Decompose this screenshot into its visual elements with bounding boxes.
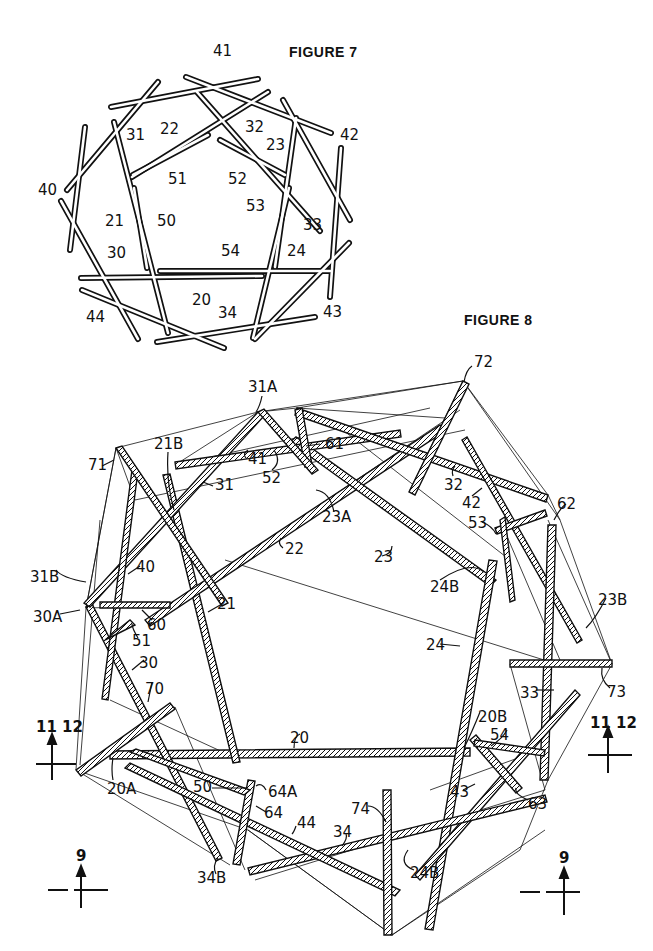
- fig8-label: 42: [462, 496, 481, 511]
- fig8-label: 34B: [197, 871, 226, 886]
- fig8-label: 23B: [598, 593, 627, 608]
- fig8-label: 20: [290, 731, 309, 746]
- section-9-left: 9: [76, 847, 86, 865]
- fig8-label: 23: [374, 550, 393, 565]
- fig7-label: 20: [192, 293, 211, 308]
- fig8-label: 20A: [107, 782, 136, 797]
- fig8-label: 31: [215, 478, 234, 493]
- fig7-label: 42: [340, 128, 359, 143]
- fig7-label: 54: [221, 244, 240, 259]
- fig8-label: 21: [217, 597, 236, 612]
- fig7-label: 50: [157, 214, 176, 229]
- fig8-label: 73: [607, 685, 626, 700]
- fig7-label: 34: [218, 306, 237, 321]
- fig7-label: 23: [266, 138, 285, 153]
- figure-8-drawing: [0, 0, 653, 951]
- fig8-label: 24: [426, 638, 445, 653]
- fig8-label: 24B: [430, 580, 459, 595]
- fig8-label: 62: [557, 497, 576, 512]
- fig7-label: 41: [213, 44, 232, 59]
- fig8-label: 20B: [478, 710, 507, 725]
- fig7-label: 21: [105, 214, 124, 229]
- section-11-12-right: 11 12: [590, 714, 637, 732]
- fig8-label: 30A: [33, 610, 62, 625]
- fig7-label: 31: [126, 128, 145, 143]
- fig8-label: 43: [450, 785, 469, 800]
- fig8-label: 72: [474, 355, 493, 370]
- fig7-label: 51: [168, 172, 187, 187]
- fig8-label: 31A: [248, 380, 277, 395]
- fig7-label: 24: [287, 244, 306, 259]
- fig8-label: 24B: [410, 866, 439, 881]
- fig8-label: 34: [333, 825, 352, 840]
- fig7-label: 52: [228, 172, 247, 187]
- fig8-label: 64: [264, 806, 283, 821]
- section-9-right: 9: [559, 849, 569, 867]
- fig7-label: 53: [246, 199, 265, 214]
- fig8-label: 30: [139, 656, 158, 671]
- fig8-label: 21B: [154, 437, 183, 452]
- fig7-label: 43: [323, 305, 342, 320]
- fig8-label: 74: [351, 802, 370, 817]
- fig8-label: 41: [248, 452, 267, 467]
- fig8-label: 54: [490, 728, 509, 743]
- section-11-12-left: 11 12: [36, 718, 83, 736]
- fig7-label: 44: [86, 310, 105, 325]
- fig7-label: 32: [245, 120, 264, 135]
- fig7-label: 22: [160, 122, 179, 137]
- fig8-label: 64A: [268, 785, 297, 800]
- fig7-label: 40: [38, 183, 57, 198]
- fig8-label: 52: [262, 471, 281, 486]
- fig8-label: 51: [132, 634, 151, 649]
- fig8-label: 53: [468, 516, 487, 531]
- fig8-label: 60: [147, 618, 166, 633]
- fig7-label: 30: [107, 246, 126, 261]
- fig8-label: 33: [520, 686, 539, 701]
- fig8-label: 61: [325, 437, 344, 452]
- fig8-label: 44: [297, 816, 316, 831]
- fig8-label: 31B: [30, 570, 59, 585]
- fig8-label: 32: [444, 478, 463, 493]
- fig8-label: 23A: [322, 510, 351, 525]
- patent-drawing-sheet: FIGURE 7 FIGURE 8: [0, 0, 653, 951]
- fig8-label: 70: [145, 682, 164, 697]
- fig8-label: 71: [88, 458, 107, 473]
- fig7-label: 33: [303, 218, 322, 233]
- fig8-label: 22: [285, 542, 304, 557]
- fig8-label: 50: [193, 780, 212, 795]
- fig8-label: 63: [528, 797, 547, 812]
- fig8-label: 40: [136, 560, 155, 575]
